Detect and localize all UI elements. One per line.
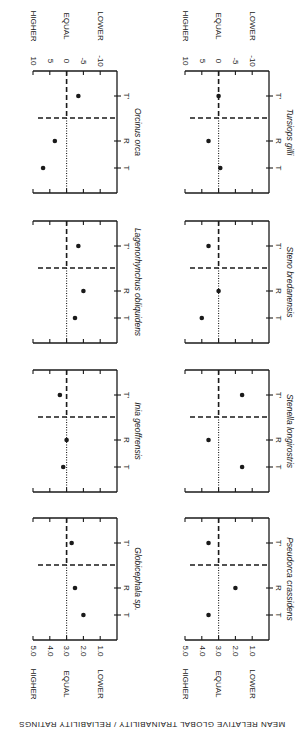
data-point (206, 438, 211, 443)
data-point (200, 316, 205, 321)
data-point (218, 166, 223, 171)
panel-lagenorhynchus-obliquidens (33, 221, 121, 343)
right-axis-tick-label: -5 (231, 57, 240, 65)
category-label: R (274, 437, 283, 443)
left-axis-tick-label: 5.0 (181, 645, 190, 657)
right-axis-tick-label: 10 (181, 57, 190, 66)
category-label: T (274, 613, 283, 618)
category-label: R (122, 288, 131, 294)
panel-stenella-longirostris (185, 370, 273, 492)
left-axis-tick-label: 3.0 (214, 645, 223, 657)
data-point (76, 244, 81, 249)
panel-inia-geoffrensis (33, 370, 121, 492)
right-axis-tick-label: -10 (248, 55, 257, 67)
data-point (216, 289, 221, 294)
category-label: T (122, 465, 131, 470)
data-point (240, 465, 245, 470)
panel-title: Inia geoffrensis (133, 402, 143, 460)
left-axis-tick-label: 5.0 (29, 645, 38, 657)
panel-title: Pseudorca crassidens (285, 537, 295, 621)
category-label: R (122, 585, 131, 591)
level-label-top: LOWER (96, 11, 105, 41)
category-label: R (274, 585, 283, 591)
data-point (73, 586, 78, 591)
left-axis-tick-label: 2.0 (231, 645, 240, 657)
panel-title: Lagenorhynchus obliquidens (133, 228, 143, 337)
data-point (233, 586, 238, 591)
level-label-bottom: EQUAL (214, 670, 223, 698)
category-label: T (122, 166, 131, 171)
y-axis-title: MEAN RELATIVE GLOBAL TRAINABILITY / RELI… (19, 720, 285, 729)
data-point (206, 541, 211, 546)
panel-orcinus-orca (33, 71, 121, 193)
category-label: R (122, 138, 131, 144)
data-point (41, 166, 46, 171)
right-axis-tick-label: -10 (96, 55, 105, 67)
panel-title: Steno bredanensis (285, 247, 295, 319)
right-axis-tick-label: 5 (46, 59, 55, 64)
data-point (81, 613, 86, 618)
left-axis-tick-label: 1.0 (248, 645, 257, 657)
category-label: T' (274, 93, 283, 100)
category-label: T' (122, 243, 131, 250)
category-label: T' (274, 243, 283, 250)
data-point (240, 393, 245, 398)
data-point (76, 94, 81, 99)
level-label-top: HIGHER (29, 10, 38, 41)
left-axis-tick-label: 1.0 (96, 645, 105, 657)
right-axis-tick-label: 5 (198, 59, 207, 64)
panel-globicephala-sp (33, 518, 121, 640)
category-label: T (122, 613, 131, 618)
left-axis-tick-label: 2.0 (79, 645, 88, 657)
data-point (216, 94, 221, 99)
level-label-top: EQUAL (62, 12, 71, 40)
figure-canvas: TRT'Globicephala sp.TRT'Inia geoffrensis… (0, 0, 305, 737)
category-label: R (274, 138, 283, 144)
category-label: T (274, 166, 283, 171)
panel-title: Globicephala sp. (133, 547, 143, 610)
level-label-bottom: LOWER (96, 669, 105, 699)
panel-title: Tursiops gilli (285, 109, 295, 157)
left-axis-tick-label: 3.0 (62, 645, 71, 657)
category-label: T (274, 465, 283, 470)
right-axis-tick-label: 0 (214, 59, 223, 64)
data-point (206, 613, 211, 618)
panel-title: Orcinus orca (133, 108, 143, 156)
data-point (81, 289, 86, 294)
category-label: T' (274, 392, 283, 399)
right-axis-tick-label: 10 (29, 57, 38, 66)
category-label: R (122, 437, 131, 443)
right-axis-tick-label: 0 (62, 59, 71, 64)
right-axis-tick-label: -5 (79, 57, 88, 65)
level-label-bottom: HIGHER (29, 668, 38, 699)
category-label: T' (274, 540, 283, 547)
left-axis-tick-label: 4.0 (46, 645, 55, 657)
panel-tursiops-gilli (185, 71, 273, 193)
level-label-bottom: LOWER (248, 669, 257, 699)
category-label: T' (122, 540, 131, 547)
data-point (64, 438, 69, 443)
category-label: T' (122, 392, 131, 399)
left-axis-tick-label: 4.0 (198, 645, 207, 657)
category-label: T' (122, 93, 131, 100)
level-label-top: LOWER (248, 11, 257, 41)
category-label: R (274, 288, 283, 294)
level-label-bottom: EQUAL (62, 670, 71, 698)
data-point (61, 465, 66, 470)
panel-steno-bredanensis (185, 221, 273, 343)
data-point (206, 244, 211, 249)
category-label: T (274, 316, 283, 321)
level-label-top: EQUAL (214, 12, 223, 40)
panel-title: Stenella longirostris (285, 394, 295, 469)
data-point (206, 139, 211, 144)
category-label: T (122, 316, 131, 321)
data-point (53, 139, 58, 144)
data-point (58, 393, 63, 398)
panel-pseudorca-crassidens (185, 518, 273, 640)
data-point (69, 541, 74, 546)
level-label-bottom: HIGHER (181, 668, 190, 699)
data-point (73, 316, 78, 321)
level-label-top: HIGHER (181, 10, 190, 41)
